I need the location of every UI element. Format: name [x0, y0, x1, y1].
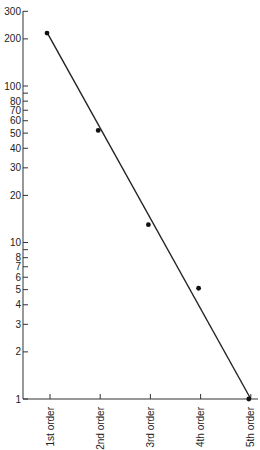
y-tick-label: 60	[10, 115, 22, 126]
y-tick-label: 80	[10, 96, 22, 107]
y-tick-label: 200	[4, 33, 21, 44]
x-tick-label: 5th order	[245, 406, 256, 447]
y-tick-label: 50	[10, 128, 22, 139]
y-tick-label: 20	[10, 190, 22, 201]
fit-line-group	[47, 32, 251, 399]
x-tick-label: 1st order	[45, 406, 56, 446]
data-point	[45, 31, 50, 36]
data-points	[45, 31, 252, 402]
y-tick-label: 10	[10, 237, 22, 248]
fit-line	[47, 32, 251, 399]
y-tick-label: 100	[4, 81, 21, 92]
y-tick-label: 3	[15, 319, 21, 330]
x-tick-label: 3rd order	[145, 406, 156, 447]
y-tick-label: 5	[15, 284, 21, 295]
x-tick-label: 2nd order	[95, 406, 106, 449]
y-tick-label: 6	[15, 272, 21, 283]
y-axis: 123456781020304050607080100200300	[4, 6, 28, 405]
y-tick-label: 1	[15, 394, 21, 405]
data-point	[246, 397, 251, 402]
y-tick-label: 8	[15, 252, 21, 263]
y-tick-label: 2	[15, 346, 21, 357]
data-point	[146, 222, 151, 227]
x-axis: 1st order2nd order3rd order4th order5th …	[23, 394, 258, 450]
x-tick-label: 4th order	[195, 406, 206, 447]
chart: 123456781020304050607080100200300 1st or…	[0, 0, 260, 450]
data-point	[96, 128, 101, 133]
y-tick-label: 300	[4, 6, 21, 17]
y-tick-label: 30	[10, 162, 22, 173]
y-tick-label: 40	[10, 143, 22, 154]
y-tick-label: 4	[15, 299, 21, 310]
data-point	[196, 286, 201, 291]
